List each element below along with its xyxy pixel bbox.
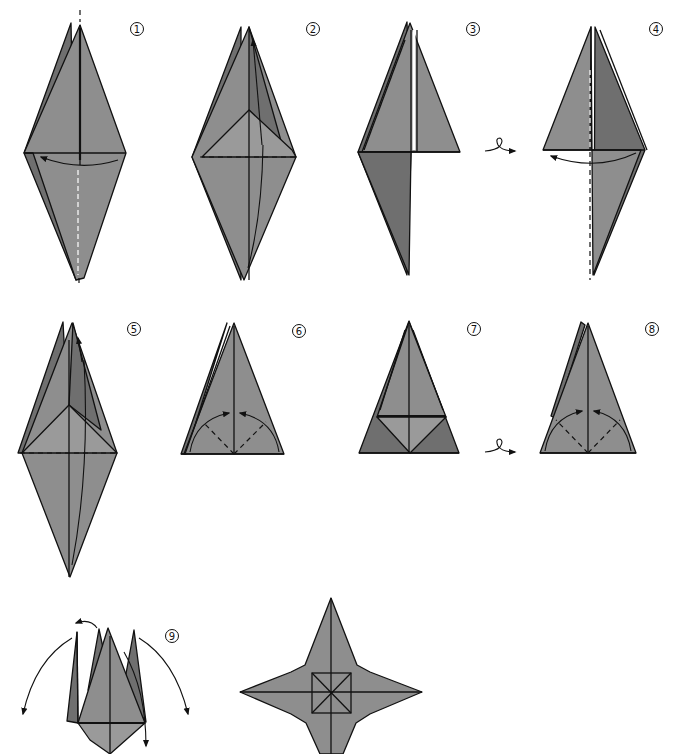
step-8-figure [540,322,636,453]
step-4-label: 4 [650,23,663,36]
step-2-label: 2 [307,23,320,36]
step-1-figure [24,10,126,286]
step-5-figure [18,322,117,577]
svg-text:6: 6 [296,326,302,337]
step-6-label: 6 [293,325,306,338]
svg-text:2: 2 [310,24,316,35]
svg-text:8: 8 [649,324,655,335]
svg-text:7: 7 [471,324,477,335]
svg-text:3: 3 [470,24,476,35]
step-1-label: 1 [131,23,144,36]
step-3-label: 3 [467,23,480,36]
step-6-figure [181,323,284,454]
step-8-label: 8 [646,323,659,336]
step-3-figure [358,22,460,275]
step-7-figure [359,321,459,453]
svg-text:9: 9 [169,631,175,642]
step-4-figure [543,27,647,280]
step-2-figure [192,27,296,280]
turn-over-icon [485,138,515,151]
step-7-label: 7 [468,323,481,336]
step-5-label: 5 [128,323,141,336]
step-9-figure [23,621,188,754]
step-9-label: 9 [166,630,179,643]
svg-text:4: 4 [653,24,659,35]
origami-diagram: 1 2 3 [0,0,682,754]
svg-text:5: 5 [131,324,137,335]
turn-over-icon [485,439,515,452]
svg-text:1: 1 [134,24,140,35]
final-star-figure [240,598,422,754]
